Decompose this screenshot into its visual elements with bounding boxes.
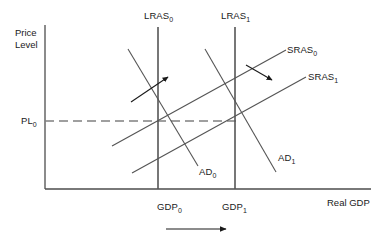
diagram-canvas bbox=[0, 0, 391, 251]
curve-label-sras-1-text: SRAS bbox=[308, 71, 334, 82]
curve-label-ad-0-subscript: 0 bbox=[212, 172, 216, 179]
curve-label-sras-0-subscript: 0 bbox=[313, 50, 317, 57]
curve-label-ad-1: AD1 bbox=[278, 152, 295, 163]
sras-shift-arrow bbox=[246, 65, 272, 80]
gdp-0-text: GDP bbox=[157, 201, 178, 212]
ad-shift-arrow bbox=[131, 77, 168, 102]
curve-sras-0 bbox=[112, 50, 286, 146]
price-level-tick-label: PL0 bbox=[21, 115, 37, 126]
gdp-1-label: GDP1 bbox=[222, 201, 247, 212]
curve-label-ad-0-text: AD bbox=[199, 166, 212, 177]
gdp-1-text: GDP bbox=[222, 201, 243, 212]
curve-label-sras-0-text: SRAS bbox=[287, 44, 313, 55]
curve-label-ad-0: AD0 bbox=[199, 166, 216, 177]
curve-label-lras-1-subscript: 1 bbox=[246, 16, 250, 23]
gdp-0-subscript: 0 bbox=[178, 207, 182, 214]
y-axis-title-line2: Level bbox=[15, 39, 38, 50]
curve-label-ad-1-subscript: 1 bbox=[291, 158, 295, 165]
y-axis-title-line1: Price bbox=[15, 27, 37, 38]
curve-label-lras-1-text: LRAS bbox=[221, 10, 246, 21]
curve-label-sras-1-subscript: 1 bbox=[334, 77, 338, 84]
curve-ad-1 bbox=[205, 49, 276, 172]
gdp-0-label: GDP0 bbox=[157, 201, 182, 212]
curve-label-ad-1-text: AD bbox=[278, 152, 291, 163]
curve-label-lras-0: LRAS0 bbox=[144, 10, 173, 21]
gdp-1-subscript: 1 bbox=[243, 207, 247, 214]
curve-label-lras-1: LRAS1 bbox=[221, 10, 250, 21]
x-axis-title-label: Real GDP bbox=[327, 197, 370, 208]
curve-ad-0 bbox=[128, 49, 198, 166]
curve-label-sras-0: SRAS0 bbox=[287, 44, 317, 55]
price-level-tick-text: PL bbox=[21, 115, 33, 126]
y-axis-title: Price Level bbox=[15, 27, 38, 50]
curve-label-sras-1: SRAS1 bbox=[308, 71, 338, 82]
as-ad-diagram: Price Level Real GDP PL0 GDP0 GDP1 LRAS0… bbox=[0, 0, 391, 251]
x-axis-title: Real GDP bbox=[327, 197, 370, 209]
curve-label-lras-0-subscript: 0 bbox=[169, 16, 173, 23]
curve-label-lras-0-text: LRAS bbox=[144, 10, 169, 21]
price-level-tick-subscript: 0 bbox=[33, 121, 37, 128]
